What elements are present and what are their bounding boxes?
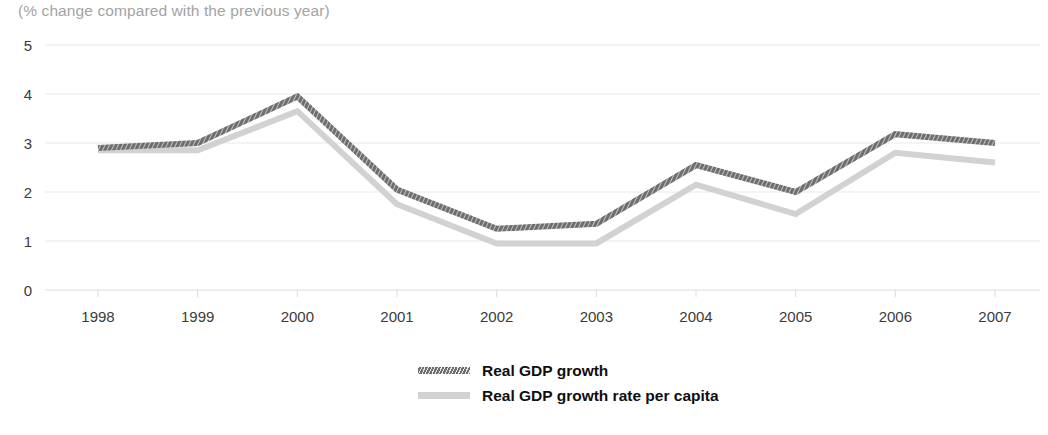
legend-item-real-gdp-growth: Real GDP growth [0, 358, 1048, 383]
legend-swatch-icon-real-gdp-growth [418, 367, 470, 374]
series-lines [98, 96, 995, 243]
y-axis-tick-label: 0 [6, 282, 32, 299]
legend-swatch-icon-real-gdp-growth-per-capita [418, 392, 470, 399]
y-axis-tick-label: 1 [6, 233, 32, 250]
y-axis-tick-label: 4 [6, 86, 32, 103]
series-line [98, 96, 995, 228]
x-axis-ticks [98, 290, 995, 297]
x-axis-tick-label: 1999 [163, 308, 233, 325]
x-axis-tick-label: 2007 [960, 308, 1030, 325]
legend-label-real-gdp-growth: Real GDP growth [482, 362, 608, 380]
x-axis-tick-label: 2004 [661, 308, 731, 325]
y-axis-tick-label: 2 [6, 184, 32, 201]
chart-legend: Real GDP growth Real GDP growth rate per… [0, 358, 1048, 408]
gridlines [45, 45, 1040, 290]
x-axis-tick-label: 2000 [262, 308, 332, 325]
x-axis-tick-label: 2002 [462, 308, 532, 325]
x-axis-tick-label: 2005 [761, 308, 831, 325]
chart-container: (% change compared with the previous yea… [0, 0, 1048, 435]
legend-item-real-gdp-growth-per-capita: Real GDP growth rate per capita [0, 383, 1048, 408]
y-axis-tick-label: 5 [6, 37, 32, 54]
x-axis-tick-label: 2006 [860, 308, 930, 325]
x-axis-tick-label: 2001 [362, 308, 432, 325]
x-axis-tick-label: 2003 [561, 308, 631, 325]
x-axis-tick-label: 1998 [63, 308, 133, 325]
y-axis-tick-label: 3 [6, 135, 32, 152]
legend-label-real-gdp-growth-per-capita: Real GDP growth rate per capita [482, 387, 719, 405]
